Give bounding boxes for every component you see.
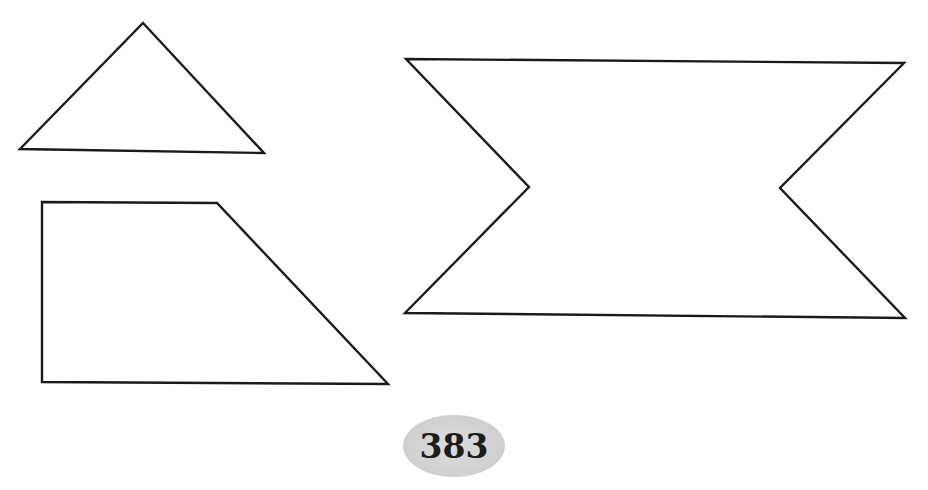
- page-number-badge: 383: [403, 415, 505, 477]
- triangle-shape: [20, 23, 264, 153]
- page-number: 383: [420, 427, 489, 466]
- trapezoid-shape: [42, 202, 388, 384]
- notched-banner-shape: [405, 59, 905, 318]
